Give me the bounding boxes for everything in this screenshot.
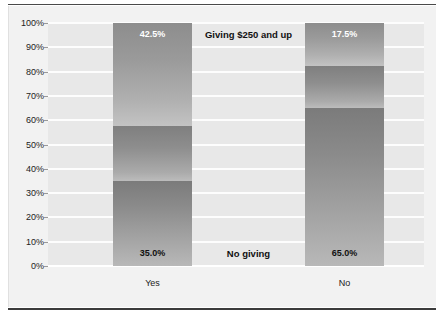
x-axis-tick-label: No xyxy=(305,278,384,288)
bar-segment[interactable] xyxy=(305,66,384,109)
inline-legend-label: Giving $250 and up xyxy=(192,29,305,40)
y-axis-tick-label: 20% xyxy=(0,213,44,222)
chart-figure: 100%90%80%70%60%50%40%30%20%10%0% 42.5%3… xyxy=(0,0,443,319)
y-axis-tick-label: 70% xyxy=(0,92,44,101)
bar-segment[interactable]: 17.5% xyxy=(305,23,384,66)
stacked-bar-no[interactable]: 17.5%65.0% xyxy=(305,23,384,266)
y-axis-tick-label: 60% xyxy=(0,116,44,125)
cropped-title-text xyxy=(60,0,250,3)
bar-segment[interactable] xyxy=(113,126,192,181)
plot-area: 42.5%35.0%17.5%65.0% xyxy=(48,23,424,266)
y-axis-tick-label: 40% xyxy=(0,165,44,174)
bar-value-label: 17.5% xyxy=(305,29,384,39)
y-axis-tick-label: 90% xyxy=(0,43,44,52)
bar-value-label: 35.0% xyxy=(113,248,192,258)
bar-segment[interactable]: 35.0% xyxy=(113,181,192,266)
y-axis-tick-label: 80% xyxy=(0,68,44,77)
bar-segment[interactable]: 65.0% xyxy=(305,108,384,266)
top-divider-rule xyxy=(8,4,436,5)
bar-segment[interactable]: 42.5% xyxy=(113,23,192,126)
y-axis-tick-label: 100% xyxy=(0,19,44,28)
x-axis-tick-label: Yes xyxy=(113,278,192,288)
stacked-bar-yes[interactable]: 42.5%35.0% xyxy=(113,23,192,266)
bar-value-label: 65.0% xyxy=(305,248,384,258)
y-axis-tick-label: 30% xyxy=(0,189,44,198)
y-axis-tick-label: 0% xyxy=(0,262,44,271)
y-axis: 100%90%80%70%60%50%40%30%20%10%0% xyxy=(0,23,44,266)
bottom-divider-rule xyxy=(8,308,436,310)
y-axis-tick-label: 10% xyxy=(0,238,44,247)
inline-legend-label: No giving xyxy=(192,248,305,259)
y-axis-tick-label: 50% xyxy=(0,141,44,150)
bar-value-label: 42.5% xyxy=(113,29,192,39)
